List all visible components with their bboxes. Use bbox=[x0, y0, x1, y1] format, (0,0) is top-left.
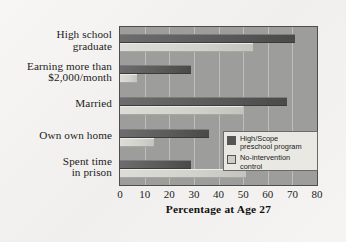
y-axis-category-labels: High schoolgraduateEarning more than$2,0… bbox=[6, 26, 116, 186]
legend-entry: No-intervention control bbox=[227, 154, 314, 170]
y-category-label: Own own home bbox=[6, 130, 112, 142]
legend-entry: High/Scopepreschool program bbox=[227, 135, 314, 151]
y-category-label-line: Own own home bbox=[6, 130, 112, 142]
legend-label-line: No-intervention control bbox=[240, 154, 314, 170]
x-axis-title: Percentage at Age 27 bbox=[119, 203, 318, 215]
x-tick-label: 70 bbox=[287, 188, 298, 200]
legend-swatch-light bbox=[227, 155, 236, 164]
legend-label-line: preschool program bbox=[240, 143, 302, 151]
y-category-label: Married bbox=[6, 98, 112, 110]
y-category-label: Earning more than$2,000/month bbox=[6, 61, 112, 84]
bar-program bbox=[120, 129, 209, 138]
x-tick-label: 80 bbox=[312, 188, 323, 200]
y-category-label-line: graduate bbox=[6, 41, 112, 53]
x-tick-label: 30 bbox=[188, 188, 199, 200]
y-category-label-line: in prison bbox=[6, 167, 112, 179]
y-category-label-line: $2,000/month bbox=[6, 72, 112, 84]
legend-swatch-dark bbox=[227, 136, 236, 145]
bar-program bbox=[120, 97, 287, 106]
x-tick-label: 0 bbox=[117, 188, 123, 200]
bar-control bbox=[120, 106, 243, 115]
x-tick-label: 50 bbox=[238, 188, 249, 200]
y-category-label: High schoolgraduate bbox=[6, 29, 112, 52]
x-axis-tick-labels: 01020304050607080 bbox=[119, 188, 318, 202]
bar-control bbox=[120, 138, 154, 147]
bar-program bbox=[120, 160, 191, 169]
bar-group bbox=[120, 59, 317, 91]
bar-program bbox=[120, 34, 295, 43]
chart-figure: High schoolgraduateEarning more than$2,0… bbox=[0, 0, 346, 242]
x-tick-label: 10 bbox=[139, 188, 150, 200]
y-category-label-line: Married bbox=[6, 98, 112, 110]
x-tick-label: 20 bbox=[164, 188, 175, 200]
bar-control bbox=[120, 43, 253, 52]
legend-label: High/Scopepreschool program bbox=[240, 135, 302, 151]
x-tick-label: 60 bbox=[262, 188, 273, 200]
bar-group bbox=[120, 27, 317, 59]
chart-legend: High/Scopepreschool programNo-interventi… bbox=[223, 131, 318, 171]
x-tick-label: 40 bbox=[213, 188, 224, 200]
bar-group bbox=[120, 90, 317, 122]
legend-label: No-intervention control bbox=[240, 154, 314, 170]
y-category-label: Spent timein prison bbox=[6, 156, 112, 179]
bar-control bbox=[120, 74, 137, 83]
bar-program bbox=[120, 65, 191, 74]
